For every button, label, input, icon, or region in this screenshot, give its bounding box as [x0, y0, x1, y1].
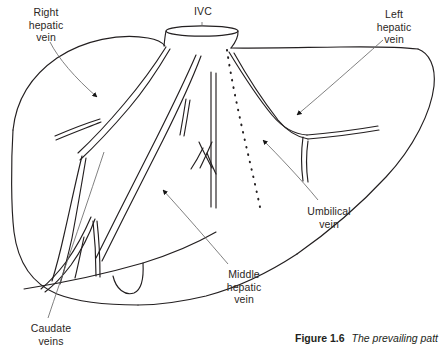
umbilical-fissure-dotted-line	[227, 50, 261, 212]
leader-caudate-veins	[48, 152, 104, 318]
label-umbilical-vein: Umbilical vein	[287, 205, 371, 230]
accessory-vein-branch	[180, 99, 190, 136]
gallbladder-fossa-notch	[24, 232, 216, 294]
label-caudate-veins: Caudate veins	[12, 322, 90, 347]
label-right-hepatic-vein: Right hepatic vein	[8, 6, 84, 44]
figure-caption: Figure 1.6The prevailing patt	[295, 332, 440, 345]
left-hepatic-vein-trunk	[229, 52, 379, 182]
figure-caption-text: The prevailing patt	[352, 332, 438, 344]
right-hepatic-vein-trunk	[52, 47, 170, 284]
leader-umbilical-vein	[263, 140, 318, 200]
ivc-stump-shape	[164, 26, 238, 48]
label-ivc: IVC	[168, 5, 238, 18]
label-left-hepatic-vein: Left hepatic vein	[356, 8, 432, 46]
figure-caption-number: Figure 1.6	[295, 332, 345, 344]
leader-left-hepatic-vein	[297, 40, 383, 115]
figure-container: Right hepatic vein IVC Left hepatic vein…	[0, 0, 440, 348]
leader-right-hepatic-vein	[50, 42, 97, 97]
label-middle-hepatic-vein: Middle hepatic vein	[206, 268, 282, 306]
middle-hepatic-vein-trunk	[96, 55, 216, 261]
